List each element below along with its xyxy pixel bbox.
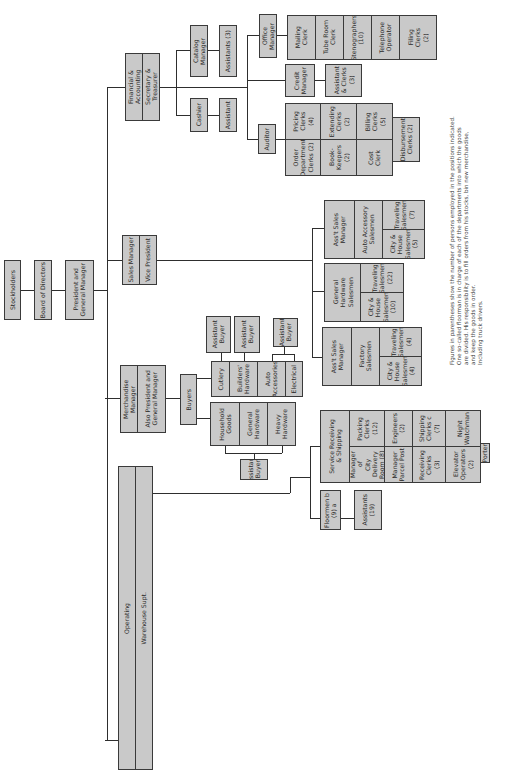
traveling-salesmen-label: Traveling Salesmen (7) <box>393 200 415 230</box>
sales-title-box: Sales Manager <box>122 235 140 285</box>
service-label: Service Receiving & Shipping <box>328 419 343 474</box>
service-staff-label: Packing Clerks (12) <box>356 417 378 441</box>
asst-sales-manager-1: Ass't Sales Manager <box>324 200 355 259</box>
credit-assistants-box: Assistant & Clerks (3) <box>325 64 362 97</box>
auditor-staff-label: Pricing Clerks (4) <box>292 111 314 132</box>
auditor-order-dept-clerks: Order Department Clerks (2) <box>285 139 321 176</box>
assistant-buyer-label: Assistant Buyer <box>240 320 255 348</box>
office-staff-label: Tube Room Clerk <box>322 20 337 54</box>
floormen-label: Floormen b (9) a <box>323 493 338 528</box>
connector <box>247 35 259 36</box>
connector <box>157 260 312 261</box>
dept-household-goods: Household Goods <box>210 402 240 446</box>
connector <box>272 354 273 361</box>
service-staff-label: Shipping Clerks c (7) <box>418 415 440 442</box>
assistant-buyer-builders: Assistant Buyer <box>234 316 260 353</box>
board-label: Board of Directors <box>39 262 46 318</box>
connector <box>310 518 320 519</box>
assistant-buyer-lower-box: Assistant Buyer <box>240 459 268 480</box>
president-label: President and General Manager <box>72 263 87 316</box>
dept-auto-accessories: Auto Accessories <box>257 361 286 397</box>
org-chart: Stockholders Board of Directors Presiden… <box>0 0 514 775</box>
financial-subtitle-box: Secretary & Treasurer <box>142 53 160 121</box>
footnote-b-text-1: One so-called floorman is in charge of e… <box>456 127 462 365</box>
connector <box>105 740 118 741</box>
dept-salesmen-label: Factory Salesmen <box>358 341 373 371</box>
dept-label: Heavy Hardware <box>274 409 289 439</box>
dept-cutlery: Cutlery <box>211 361 230 397</box>
traveling-salesmen-label: Traveling Salesmen (22) <box>371 263 393 293</box>
cashier-assistant-label: Assistant <box>224 101 231 129</box>
service-staff-label: Receiving Clerks (3) <box>418 450 440 480</box>
auditor-staff-label: Order Department Clerks (2) <box>292 139 314 176</box>
connector <box>310 446 320 447</box>
traveling-salesmen-label: Traveling Salesmen (4) <box>390 327 412 357</box>
dept-salesmen-label: General Hardware Salesmen <box>332 277 354 307</box>
merchandise-subtitle-box: Also President and General Manager <box>137 365 166 433</box>
connector <box>284 346 285 354</box>
connector <box>315 80 325 81</box>
connector <box>312 228 324 229</box>
auditor-billing-clerks: Billing Clerks (5) <box>356 103 393 140</box>
connector <box>247 139 258 140</box>
connector <box>272 354 294 355</box>
connector <box>221 352 222 361</box>
office-staff-label: Mailing Clerk <box>294 26 309 48</box>
disbursement-label: Disbursement Clerks (2) <box>399 118 414 161</box>
credit-manager-label: Credit Manager <box>293 67 308 94</box>
floor-assistants-label: Assistants (19) <box>361 494 376 525</box>
footnote-a: Figures in parentheses show the number o… <box>449 120 456 365</box>
connector <box>94 290 107 291</box>
dept-label: Builders' Hardware <box>236 364 251 394</box>
city-house-salesmen-5: City & House Salesmen (5) <box>382 229 425 259</box>
connector <box>282 446 283 453</box>
connector <box>176 50 190 51</box>
operating-title: Operating <box>123 603 130 634</box>
stockholders-label: Stockholders <box>9 270 16 310</box>
service-staff-label: Elevator Operators (2) <box>452 449 474 480</box>
traveling-salesmen-22: Traveling Salesmen (22) <box>360 263 404 293</box>
asst-sales-manager-3: Ass't Sales Manager <box>322 327 352 386</box>
city-house-salesmen-label: City & House Salesmen (5) <box>389 229 418 259</box>
connector <box>52 290 65 291</box>
main-spine <box>107 87 108 740</box>
connector <box>107 87 125 88</box>
assistant-buyer-label: Assistant Buyer <box>278 318 293 346</box>
stockholders-box: Stockholders <box>4 260 21 320</box>
office-staff-filing: Filing Clerks (2) <box>399 15 437 60</box>
office-staff-label: Stenographers (10) <box>350 15 365 60</box>
operating-subtitle: Warehouse Supt. <box>140 592 147 645</box>
connector <box>341 518 354 519</box>
auditor-cost-clerk: Cost Clerk <box>356 139 393 176</box>
service-receiving-clerks: Receiving Clerks (3) <box>412 446 446 483</box>
porter-box: Porter <box>480 443 490 463</box>
operating-title-box: Operating <box>118 466 136 770</box>
office-staff-label: Filing Clerks (2) <box>407 28 429 47</box>
office-staff-label: Telephone Operator <box>378 22 393 53</box>
service-engineers: Engineers (2) <box>384 410 413 447</box>
connector <box>312 228 313 357</box>
connector <box>247 35 248 139</box>
cashier-label: Cashier <box>195 103 202 126</box>
office-staff-tube-room: Tube Room Clerk <box>315 15 344 60</box>
service-shipping-clerks: Shipping Clerks c (7) <box>412 410 446 447</box>
dept-label: Cutlery <box>217 368 224 390</box>
service-receiving-shipping: Service Receiving & Shipping <box>320 410 350 483</box>
merchandise-title: Merchandise Manager <box>122 366 137 432</box>
footnote-a-text: Figures in parentheses show the number o… <box>449 116 455 365</box>
catalog-manager-box: Catalog Manager <box>190 25 208 77</box>
assistant-buyer-auto-electrical: Assistant Buyer <box>273 318 298 347</box>
asst-sales-manager-label: Ass't Sales Manager <box>330 340 345 373</box>
connector <box>310 446 311 518</box>
buyers-box: Buyers <box>180 374 197 425</box>
service-staff-label: Manager Parcel Post <box>391 448 406 482</box>
board-of-directors-box: Board of Directors <box>34 260 52 320</box>
auditor-staff-label: Extending Clerks (2) <box>328 106 350 137</box>
operating-subtitle-box: Warehouse Supt. <box>135 466 153 770</box>
service-staff-label: Engineers (2) <box>391 413 406 444</box>
sales-subtitle: Vice President <box>144 238 151 282</box>
city-house-salesmen-4: City & House Salesmen (4) <box>379 356 422 386</box>
connector <box>247 80 285 81</box>
financial-title: Financial & Accounting <box>127 54 142 120</box>
connector <box>290 477 310 478</box>
